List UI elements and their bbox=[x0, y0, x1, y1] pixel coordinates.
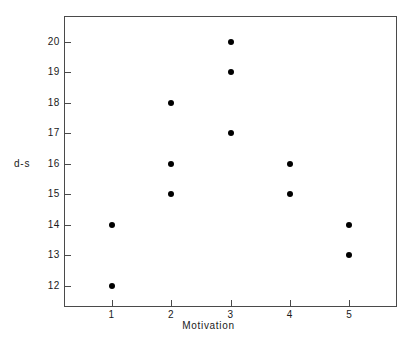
y-tick-label: 18 bbox=[38, 97, 60, 108]
plot-frame bbox=[64, 16, 397, 307]
y-tick-mark bbox=[64, 42, 71, 43]
y-tick-mark bbox=[64, 194, 71, 195]
data-point bbox=[287, 161, 293, 167]
y-tick-mark bbox=[64, 103, 71, 104]
figure-caption bbox=[0, 341, 417, 349]
data-point bbox=[109, 283, 115, 289]
y-tick-mark bbox=[64, 133, 71, 134]
x-tick-mark bbox=[112, 300, 113, 307]
data-point bbox=[168, 100, 174, 106]
y-tick-label: 12 bbox=[38, 280, 60, 291]
scatter-plot-figure: 121314151617181920 12345 d-s Motivation bbox=[0, 0, 417, 349]
y-axis-label: d-s bbox=[14, 158, 44, 169]
y-tick-label: 13 bbox=[38, 249, 60, 260]
y-tick-label: 20 bbox=[38, 36, 60, 47]
data-point bbox=[228, 69, 234, 75]
x-tick-mark bbox=[231, 300, 232, 307]
y-tick-label: 14 bbox=[38, 219, 60, 230]
y-tick-label: 17 bbox=[38, 127, 60, 138]
y-tick-mark bbox=[64, 164, 71, 165]
x-tick-label: 1 bbox=[100, 309, 124, 320]
x-tick-label: 2 bbox=[159, 309, 183, 320]
x-tick-mark bbox=[290, 300, 291, 307]
data-point bbox=[168, 161, 174, 167]
data-point bbox=[109, 222, 115, 228]
x-tick-label: 3 bbox=[219, 309, 243, 320]
data-point bbox=[228, 39, 234, 45]
y-tick-mark bbox=[64, 286, 71, 287]
y-tick-label: 19 bbox=[38, 66, 60, 77]
y-tick-mark bbox=[64, 255, 71, 256]
y-tick-mark bbox=[64, 72, 71, 73]
data-point bbox=[228, 130, 234, 136]
y-tick-label: 15 bbox=[38, 188, 60, 199]
y-tick-mark bbox=[64, 225, 71, 226]
x-tick-label: 4 bbox=[278, 309, 302, 320]
x-tick-mark bbox=[171, 300, 172, 307]
x-tick-mark bbox=[349, 300, 350, 307]
x-axis-label: Motivation bbox=[0, 320, 417, 331]
x-tick-label: 5 bbox=[337, 309, 361, 320]
